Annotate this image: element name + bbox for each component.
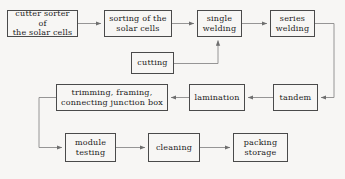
node-cleaning[interactable]: cleaning (148, 133, 200, 162)
node-sorting[interactable]: sorting of the solar cells (104, 10, 172, 37)
node-packing-storage[interactable]: packing storage (233, 133, 288, 162)
flowchart: cutter sorter of the solar cells sorting… (0, 0, 345, 179)
node-module-testing[interactable]: module testing (65, 133, 116, 162)
node-tandem[interactable]: tandem (273, 84, 318, 111)
node-cutter-sorter[interactable]: cutter sorter of the solar cells (7, 10, 78, 37)
edge-cutting-to-single-welding (174, 41, 218, 64)
node-trimming-framing-junction-box[interactable]: trimming, framing, connecting junction b… (56, 84, 168, 111)
node-cutting[interactable]: cutting (131, 52, 174, 74)
node-lamination[interactable]: lamination (189, 84, 245, 111)
node-series-welding[interactable]: series welding (270, 10, 315, 37)
node-single-welding[interactable]: single welding (197, 10, 242, 37)
